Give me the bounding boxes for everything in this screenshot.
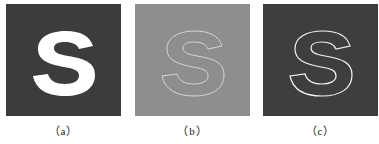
panel-c-outline-s [263, 4, 378, 116]
panel-a-solid-s [6, 4, 121, 116]
s-shape-edge-gray [135, 4, 250, 116]
s-shape-solid [6, 4, 121, 116]
s-shape-outline-white [263, 4, 378, 116]
panel-b-edge-s [135, 4, 250, 116]
caption-a: （a） [6, 122, 121, 138]
caption-b: （b） [135, 122, 250, 138]
caption-c: （c） [263, 122, 378, 138]
